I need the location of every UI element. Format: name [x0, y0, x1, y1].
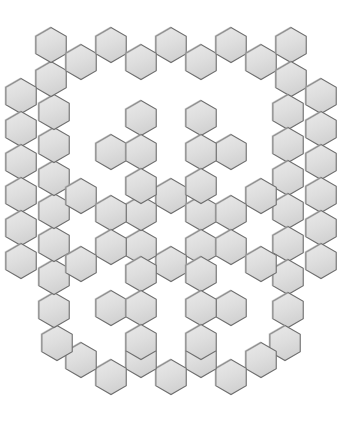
- pattern-canvas: [0, 0, 342, 442]
- hexagon-pattern-figure: [0, 0, 342, 442]
